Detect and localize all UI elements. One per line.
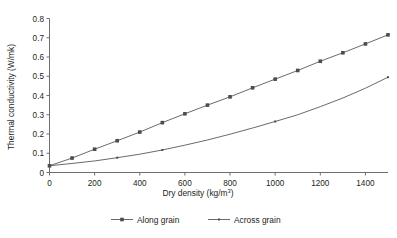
- y-tick-label: 0.2: [33, 130, 45, 139]
- data-point-marker: [70, 156, 74, 160]
- data-point-marker: [387, 76, 389, 78]
- chart-figure: 00.10.20.30.40.50.60.70.8 02004006008001…: [0, 0, 397, 238]
- y-tick-label: 0.4: [33, 92, 45, 101]
- y-tick-label: 0.7: [33, 34, 45, 43]
- x-tick-label: 800: [223, 179, 237, 188]
- data-point-marker: [296, 69, 300, 73]
- data-point-marker: [116, 157, 118, 159]
- data-point-marker: [138, 130, 142, 134]
- y-tick-label: 0.3: [33, 111, 45, 120]
- thermal-conductivity-line-chart: 00.10.20.30.40.50.60.70.8 02004006008001…: [0, 0, 397, 238]
- x-tick-label: 1200: [311, 179, 330, 188]
- x-tick-label: 1400: [356, 179, 375, 188]
- y-tick-label: 0.1: [33, 149, 45, 158]
- x-axis-title: Dry density (kg/m3): [162, 188, 233, 199]
- y-tick-label: 0.5: [33, 72, 45, 81]
- data-point-marker: [161, 121, 165, 125]
- chart-background: [0, 0, 397, 238]
- data-point-marker: [386, 33, 390, 37]
- legend-swatch-marker: [218, 219, 220, 221]
- y-axis-tick-labels: 00.10.20.30.40.50.60.70.8: [33, 15, 45, 178]
- y-axis-title: Thermal conductivity (W/mk): [6, 44, 16, 150]
- x-tick-label: 400: [133, 179, 147, 188]
- x-axis-title-base: Dry density (kg/m: [162, 188, 227, 198]
- data-point-marker: [206, 103, 210, 107]
- x-tick-label: 600: [178, 179, 192, 188]
- legend-label: Along grain: [137, 215, 180, 225]
- data-point-marker: [273, 77, 277, 81]
- legend-swatch-marker: [120, 218, 124, 222]
- x-axis-title-tail: ): [231, 188, 234, 198]
- x-tick-label: 0: [47, 179, 52, 188]
- data-point-marker: [251, 86, 255, 90]
- x-tick-label: 1000: [266, 179, 285, 188]
- x-tick-label: 200: [88, 179, 102, 188]
- data-point-marker: [274, 120, 276, 122]
- data-point-marker: [319, 59, 323, 63]
- data-point-marker: [183, 112, 187, 116]
- data-point-marker: [161, 149, 163, 151]
- data-point-marker: [341, 51, 345, 55]
- y-tick-label: 0: [39, 169, 44, 178]
- data-point-marker: [228, 95, 232, 99]
- data-point-marker: [93, 147, 97, 151]
- y-tick-label: 0.8: [33, 15, 45, 24]
- data-point-marker: [115, 139, 119, 143]
- data-point-marker: [364, 42, 368, 46]
- legend-label: Across grain: [234, 215, 281, 225]
- y-tick-label: 0.6: [33, 53, 45, 62]
